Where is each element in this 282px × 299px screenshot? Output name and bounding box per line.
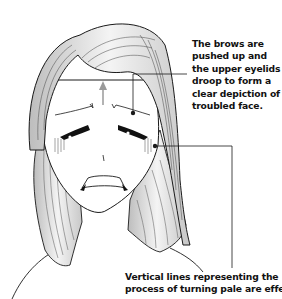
annotation-line: process of turning pale are effective bbox=[125, 283, 282, 295]
annotation-line: Vertical lines representing the bbox=[125, 271, 282, 283]
annotation-line: droop to form a bbox=[192, 75, 282, 87]
annotation-line: troubled face. bbox=[192, 100, 282, 112]
annotation-line: pushed up and bbox=[192, 50, 282, 62]
annotation-pale-lines: Vertical lines representing the process … bbox=[125, 271, 282, 296]
annotation-brows: The brows are pushed up and the upper ey… bbox=[192, 38, 282, 112]
annotation-line: clear depiction of a bbox=[192, 88, 282, 100]
annotation-line: the upper eyelids bbox=[192, 63, 282, 75]
annotation-line: The brows are bbox=[192, 38, 282, 50]
